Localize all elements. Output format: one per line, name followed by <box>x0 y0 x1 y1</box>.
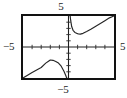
x-axis-max-label: 5 <box>120 41 125 52</box>
x-axis-min-label: −5 <box>3 41 14 52</box>
y-axis-max-label: 5 <box>58 1 63 12</box>
curve-right-branch <box>70 16 114 34</box>
y-axis-min-label: −5 <box>57 84 68 95</box>
function-graph-figure: 5 −5 5 −5 <box>0 0 127 98</box>
axes-group <box>23 16 114 78</box>
plot-viewport <box>21 14 116 80</box>
plot-canvas <box>23 16 114 78</box>
curve-left-branch <box>23 60 67 78</box>
